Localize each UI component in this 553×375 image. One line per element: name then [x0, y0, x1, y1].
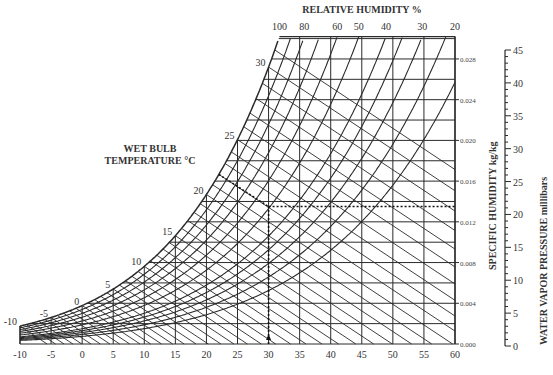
x-tick-label: 15 [170, 349, 180, 360]
sh-tick-label: 0.004 [460, 300, 476, 308]
wet-bulb-line [194, 212, 392, 344]
example-path-layer [219, 174, 455, 344]
vp-tick-label: 0 [513, 341, 518, 352]
vp-tick-label: 30 [513, 144, 523, 155]
wet-bulb-line [213, 185, 453, 344]
wet-bulb-label: 10 [131, 256, 141, 267]
x-tick-label: 0 [80, 349, 85, 360]
wet-bulb-line [119, 285, 208, 344]
rh-label: 30 [417, 21, 427, 32]
x-tick-label: 60 [450, 349, 460, 360]
vp-tick-label: 5 [513, 308, 518, 319]
rh-label: 100 [272, 21, 287, 32]
wet-bulb-line [231, 152, 455, 300]
rh-label: 20 [450, 21, 460, 32]
wet-bulb-line [64, 313, 110, 344]
vp-tick-label: 25 [513, 177, 523, 188]
wet-bulb-label: -5 [40, 308, 48, 319]
wet-bulb-label: 30 [256, 57, 266, 68]
x-tick-label: 40 [326, 349, 336, 360]
vp-tick-label: 35 [513, 111, 523, 122]
wet-bulb-label: -10 [4, 316, 17, 327]
example-arrow-icon [266, 334, 271, 340]
x-tick-label: 20 [201, 349, 211, 360]
sh-tick-label: 0.016 [460, 178, 476, 186]
sh-tick-label: 0.000 [460, 341, 476, 349]
x-tick-label: 10 [139, 349, 149, 360]
vp-tick-label: 45 [513, 45, 523, 56]
wet-bulb-label: 0 [74, 296, 79, 307]
rh-label: 50 [354, 21, 364, 32]
x-tick-label: 55 [419, 349, 429, 360]
sh-tick-label: 0.012 [460, 219, 476, 227]
x-tick-label: 30 [264, 349, 274, 360]
rh-axis-title: RELATIVE HUMIDITY % [302, 4, 421, 15]
vp-tick-label: 40 [513, 78, 523, 89]
wet-bulb-label: 5 [105, 279, 110, 290]
vapor-pressure-axis-title: WATER VAPOR PRESSURE millibars [538, 177, 549, 345]
x-tick-label: 45 [357, 349, 367, 360]
wet-bulb-label: 15 [162, 226, 172, 237]
x-tick-label: -10 [13, 349, 26, 360]
wet-bulb-line [256, 99, 455, 231]
wet-bulb-line [151, 261, 276, 344]
wet-bulb-title-line1: WET BULB [124, 143, 177, 154]
vp-tick-label: 10 [513, 275, 523, 286]
sh-tick-label: 0.024 [460, 97, 476, 105]
vp-tick-label: 15 [513, 242, 523, 253]
vp-tick-label: 20 [513, 209, 523, 220]
x-tick-label: 25 [233, 349, 243, 360]
grid-layer [20, 37, 455, 344]
wet-bulb-label: 25 [225, 130, 235, 141]
rh-label: 80 [299, 21, 309, 32]
specific-humidity-axis-title: SPECIFIC HUMIDITY kg/kg [487, 141, 498, 270]
wet-bulb-line [200, 204, 411, 344]
x-tick-label: 50 [388, 349, 398, 360]
x-tick-label: -5 [47, 349, 55, 360]
psychrometric-chart: 100806050403020-10-5051015202530-10-5051… [0, 0, 553, 375]
x-tick-label: 5 [111, 349, 116, 360]
rh-curve [20, 39, 290, 328]
sh-tick-label: 0.020 [460, 137, 476, 145]
rh-label: 40 [381, 21, 391, 32]
x-tick-label: 35 [295, 349, 305, 360]
rh-label: 60 [332, 21, 342, 32]
wet-bulb-label: 20 [193, 185, 203, 196]
sh-tick-label: 0.028 [460, 56, 476, 64]
wet-bulb-line [138, 271, 247, 344]
sh-tick-label: 0.008 [460, 260, 476, 268]
wet-bulb-line [225, 163, 455, 316]
wet-bulb-title-line2: TEMPERATURE °C [105, 155, 196, 166]
rh-curve [20, 41, 303, 330]
